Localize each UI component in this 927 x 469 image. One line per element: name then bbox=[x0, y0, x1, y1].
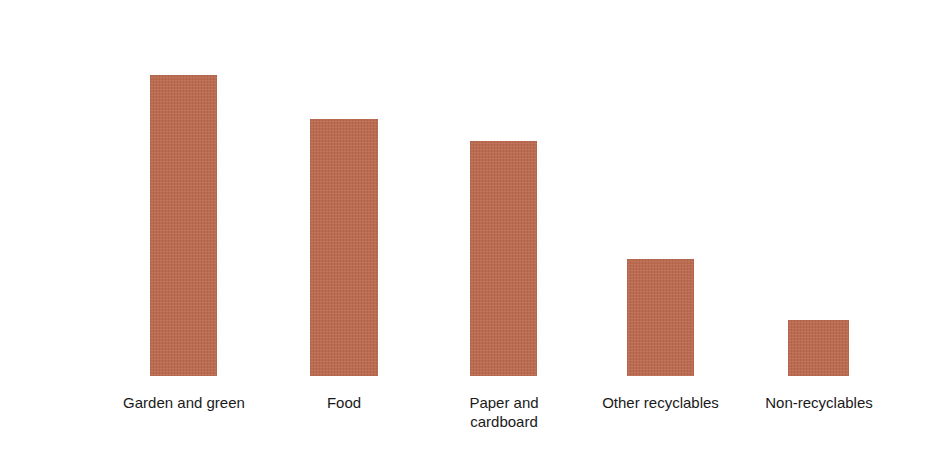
x-tick-label-food: Food bbox=[290, 393, 398, 412]
bar-other-recyclables[interactable] bbox=[627, 259, 694, 376]
x-tick-label-garden-and-green: Garden and green bbox=[93, 393, 275, 412]
bar-garden-and-green[interactable] bbox=[150, 75, 217, 376]
x-tick-label-other-recyclables: Other recyclables bbox=[580, 393, 741, 412]
bar-paper-and-cardboard[interactable] bbox=[470, 141, 537, 376]
x-tick-label-paper-and-cardboard: Paper and cardboard bbox=[443, 393, 565, 431]
bar-food[interactable] bbox=[310, 119, 378, 376]
bar-non-recyclables[interactable] bbox=[788, 320, 849, 376]
x-tick-label-non-recyclables: Non-recyclables bbox=[745, 393, 893, 412]
bar-chart: 35% 30% 25% 20% 15% 10% 5% 0% Garden and… bbox=[0, 0, 927, 469]
